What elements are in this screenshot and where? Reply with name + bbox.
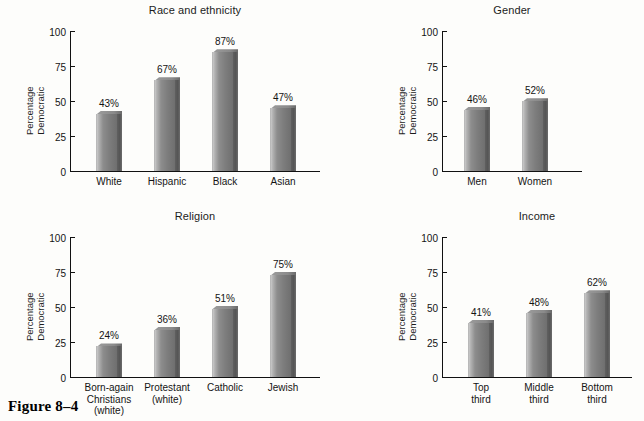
bar-value-label: 67% — [157, 64, 177, 75]
y-axis-label-line1: Percentage — [24, 86, 35, 135]
bar-race-2: 87%Black — [212, 49, 238, 171]
y-axis-label-line1: Percentage — [396, 292, 407, 341]
y-tick-mark — [442, 136, 447, 137]
y-tick-mark — [442, 31, 447, 32]
y-tick-mark — [70, 171, 75, 172]
x-category-label: Born-againChristians(white) — [85, 382, 134, 417]
x-category-label-line: Born-again — [85, 382, 134, 394]
y-axis-label-line1: Percentage — [396, 86, 407, 135]
y-tick-label: 75 — [427, 267, 438, 278]
bar-income-0: 41%Topthird — [468, 320, 494, 377]
x-category-label-line: Men — [467, 176, 486, 188]
bar-value-label: 51% — [215, 293, 235, 304]
plot-area-income: 025507510041%Topthird48%Middlethird62%Bo… — [442, 237, 632, 377]
y-tick-race-100: 100 — [70, 31, 75, 32]
bar-side-face — [547, 313, 552, 377]
x-category-label: Women — [518, 176, 552, 188]
x-category-label-line: Black — [213, 176, 237, 188]
bar-side-face — [117, 114, 122, 171]
y-tick-income-75: 75 — [442, 272, 447, 273]
x-category-label-line: third — [471, 394, 490, 406]
bar-side-face — [605, 293, 610, 377]
y-tick-race-25: 25 — [70, 136, 75, 137]
bar-side-face — [543, 101, 548, 171]
bar-value-label: 46% — [467, 94, 487, 105]
bar-side-face — [175, 330, 180, 377]
x-category-label-line: Women — [518, 176, 552, 188]
bar-value-label: 48% — [529, 297, 549, 308]
x-category-label: Men — [467, 176, 486, 188]
bar-front-face — [212, 309, 233, 377]
figure-page: Race and ethnicityPercentageDemocratic02… — [0, 0, 644, 421]
bar-front-face — [464, 110, 485, 171]
y-axis-label-religion: PercentageDemocratic — [24, 292, 46, 341]
bar-side-face — [489, 323, 494, 377]
y-tick-mark — [70, 31, 75, 32]
y-tick-religion-50: 50 — [70, 307, 75, 308]
x-category-label-line: (white) — [144, 394, 190, 406]
y-tick-label: 50 — [55, 96, 66, 107]
chart-panel-religion: ReligionPercentageDemocratic025507510024… — [8, 210, 340, 421]
y-axis-label-line2: Democratic — [35, 292, 46, 341]
x-category-label-line: third — [581, 394, 613, 406]
x-category-label: Bottomthird — [581, 382, 613, 405]
y-tick-income-50: 50 — [442, 307, 447, 308]
chart-panel-income: IncomePercentageDemocratic025507510041%T… — [390, 210, 644, 421]
y-tick-mark — [70, 237, 75, 238]
bar-race-3: 47%Asian — [270, 105, 296, 171]
chart-title-gender: Gender — [442, 4, 582, 16]
y-tick-label: 50 — [427, 96, 438, 107]
y-tick-income-25: 25 — [442, 342, 447, 343]
y-tick-mark — [442, 237, 447, 238]
y-tick-mark — [442, 342, 447, 343]
y-tick-label: 25 — [427, 337, 438, 348]
y-axis-label-race: PercentageDemocratic — [24, 86, 46, 135]
bar-side-face — [485, 110, 490, 171]
bar-front-face — [270, 275, 291, 377]
chart-title-race: Race and ethnicity — [70, 4, 320, 16]
x-category-label-line: Top — [471, 382, 490, 394]
y-tick-mark — [70, 342, 75, 343]
bar-front-face — [96, 346, 117, 377]
bar-gender-1: 52%Women — [522, 98, 548, 171]
y-tick-religion-100: 100 — [70, 237, 75, 238]
bar-front-face — [584, 293, 605, 377]
bar-side-face — [175, 80, 180, 171]
y-tick-mark — [70, 307, 75, 308]
bar-front-face — [212, 52, 233, 171]
y-tick-label: 100 — [421, 26, 438, 37]
chart-title-income: Income — [442, 210, 632, 222]
y-tick-label: 75 — [55, 267, 66, 278]
y-tick-race-0: 0 — [70, 171, 75, 172]
y-tick-gender-0: 0 — [442, 171, 447, 172]
x-category-label: Hispanic — [148, 176, 186, 188]
y-tick-gender-75: 75 — [442, 66, 447, 67]
bar-value-label: 36% — [157, 314, 177, 325]
bar-value-label: 43% — [99, 98, 119, 109]
x-category-label: Protestant(white) — [144, 382, 190, 405]
bar-value-label: 52% — [525, 85, 545, 96]
x-category-label: Asian — [270, 176, 295, 188]
y-tick-mark — [70, 101, 75, 102]
x-category-label: Catholic — [207, 382, 243, 394]
y-tick-mark — [442, 101, 447, 102]
y-tick-gender-50: 50 — [442, 101, 447, 102]
y-axis-label-line2: Democratic — [407, 292, 418, 341]
x-category-label: Black — [213, 176, 237, 188]
x-category-label-line: White — [96, 176, 122, 188]
y-tick-mark — [70, 136, 75, 137]
chart-panel-race: Race and ethnicityPercentageDemocratic02… — [8, 4, 340, 231]
x-category-label-line: Christians — [85, 394, 134, 406]
bar-religion-0: 24%Born-againChristians(white) — [96, 343, 122, 377]
bar-race-0: 43%White — [96, 111, 122, 171]
bar-race-1: 67%Hispanic — [154, 77, 180, 171]
y-tick-mark — [442, 66, 447, 67]
y-tick-mark — [442, 307, 447, 308]
x-category-label: Middlethird — [524, 382, 553, 405]
bar-front-face — [270, 108, 291, 171]
y-tick-label: 75 — [427, 61, 438, 72]
y-tick-label: 0 — [60, 166, 66, 177]
bar-side-face — [291, 275, 296, 377]
x-category-label-line: Asian — [270, 176, 295, 188]
bar-religion-3: 75%Jewish — [270, 272, 296, 377]
